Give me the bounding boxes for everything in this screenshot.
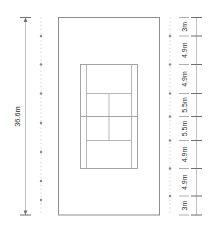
overall-arrow-top bbox=[24, 18, 28, 22]
chain-segment-label-1: 3m bbox=[181, 22, 188, 32]
chain-segment-label-5: 5.5m bbox=[181, 121, 188, 137]
chain-segment-label-8: 3m bbox=[181, 200, 188, 210]
chain-segment-label-6: 4.9m bbox=[181, 147, 188, 163]
chain-segment-label-3: 4.9m bbox=[181, 71, 188, 87]
overall-arrow-bottom bbox=[24, 211, 28, 215]
chain-segment-label-7: 4.9m bbox=[181, 174, 188, 190]
tennis-court-drawing: 36.6m bbox=[0, 0, 216, 229]
right-witness-dots bbox=[169, 35, 172, 198]
chain-segment-label-2: 4.9m bbox=[181, 42, 188, 58]
plan-svg: 36.6m bbox=[0, 0, 216, 229]
chain-segment-label-4: 5.5m bbox=[181, 97, 188, 113]
overall-dimension-label: 36.6m bbox=[13, 106, 22, 127]
